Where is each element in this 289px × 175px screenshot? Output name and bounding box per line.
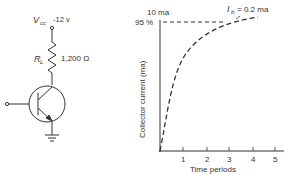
svg-text:2: 2 (205, 155, 210, 164)
svg-text:1: 1 (181, 155, 186, 164)
x-axis-label: Time periods (190, 165, 236, 174)
svg-text:5: 5 (273, 155, 278, 164)
svg-text:4: 4 (251, 155, 256, 164)
chart (159, 16, 284, 152)
y-axis-label: Collector current (ma) (138, 60, 147, 138)
resistor-value: 1,200 Ω (61, 54, 89, 63)
supply-value: -12 v (53, 15, 70, 24)
curve-sub: b (231, 9, 235, 15)
figure: V cc -12 v R L 1,200 Ω 10 ma 95 % I b = … (0, 0, 289, 175)
svg-text:3: 3 (227, 155, 232, 164)
resistor-sub: L (40, 59, 43, 65)
level-label: 95 % (135, 18, 153, 27)
resistor-icon (48, 42, 56, 73)
curve-label: I (227, 4, 230, 14)
supply-label: V (33, 15, 40, 25)
curve-value: = 0.2 ma (237, 5, 269, 14)
x-tick-labels: 1 2 3 4 5 (181, 155, 278, 164)
input-terminal-icon (5, 102, 8, 105)
supply-sub: cc (40, 20, 46, 26)
ground-icon (45, 135, 59, 141)
x-ticks (183, 147, 275, 151)
supply-terminal-icon (50, 26, 53, 29)
ymax-label: 10 ma (147, 8, 170, 17)
circuit-diagram (5, 26, 65, 141)
current-curve (160, 17, 258, 151)
